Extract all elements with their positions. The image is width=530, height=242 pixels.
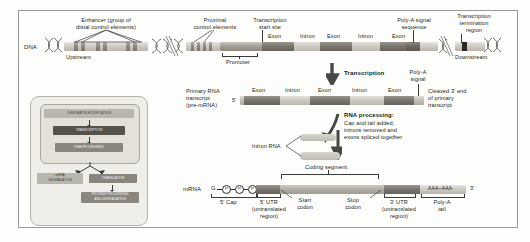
dna-intron-label-1: Intron <box>300 33 315 40</box>
flow-step-rna-processing[interactable]: RNA PROCESSING <box>55 143 123 152</box>
transcription-arrow <box>326 63 340 85</box>
dna-gene-body-bar <box>262 42 420 51</box>
upstream-label: Upstream <box>66 54 91 61</box>
transcription-start-site-label: Transcription start site <box>243 17 297 31</box>
start-codon-label: Start codon <box>292 197 318 211</box>
five-cap-bracket <box>211 194 257 198</box>
transcription-termination-label: Transcription termination region <box>442 13 506 34</box>
polya-signal-sequence-label: Poly-A signal sequence <box>388 17 440 31</box>
three-utr-label: 3' UTR (untranslated region) <box>378 199 420 220</box>
flow-step-chromatin-modification[interactable]: CHROMATIN MODIFICATION <box>44 109 134 118</box>
dna-exon-label-2: Exon <box>327 33 340 40</box>
polya-tail-bracket <box>421 194 465 198</box>
coding-segment-bracket <box>281 174 379 179</box>
dna-helix-break-right <box>437 36 457 56</box>
rna-processing-detail: Cap and tail added; introns removed and … <box>344 120 402 141</box>
dna-terminator-bar <box>455 42 485 51</box>
promoter-bracket <box>222 53 258 57</box>
pre-mrna-five-prime-label: 5' <box>232 97 236 104</box>
dna-row-label: DNA <box>24 44 37 51</box>
flow-arrow-2 <box>89 137 90 142</box>
dna-intron-label-2: Intron <box>358 33 373 40</box>
polya-signal-transcript-pointer <box>418 84 419 96</box>
cleaved-three-prime-label: Cleaved 3' end of primary transcript <box>428 88 467 109</box>
dna-polya-signal-sequence <box>406 42 420 51</box>
pre-mrna-intron-label-1: Intron <box>285 87 300 94</box>
gene-expression-flowchart-panel: CHROMATIN MODIFICATION TRANSCRIPTION RNA… <box>30 96 148 226</box>
pre-mrna-exon-label-3: Exon <box>388 87 401 94</box>
dna-exon-label-1: Exon <box>268 33 281 40</box>
flow-arrow-1 <box>89 120 90 125</box>
dna-proximal-bar <box>186 42 220 51</box>
pre-mrna-exon-label-2: Exon <box>318 87 331 94</box>
dna-post-polya-bar <box>420 42 438 51</box>
pre-mrna-bar <box>240 96 424 105</box>
pre-mrna-exon-label-1: Exon <box>252 87 265 94</box>
cap-guanine-label: G <box>211 185 216 192</box>
dna-promoter-bar <box>220 42 262 51</box>
mrna-three-prime-label: 3' <box>470 185 474 192</box>
dna-helix-middle <box>150 36 188 56</box>
three-utr-bracket <box>384 194 416 198</box>
enhancer-leader-lines <box>60 30 156 43</box>
polya-signal-pointer <box>413 30 414 43</box>
mrna-row-label: mRNA <box>183 186 201 193</box>
proximal-control-label: Proximal control elements <box>184 17 246 31</box>
dna-enhancer-bar <box>64 42 148 51</box>
five-cap-label: 5' Cap <box>220 199 237 206</box>
primary-transcript-label: Primary RNA transcript (pre-mRNA) <box>186 88 220 109</box>
five-utr-bracket <box>257 194 281 198</box>
termination-pointer <box>461 34 462 43</box>
dna-exon-label-3: Exon <box>392 33 405 40</box>
stop-codon-label: Stop codon <box>340 197 366 211</box>
rna-processing-heading: RNA processing: <box>344 112 394 119</box>
gene-expression-figure: DNA Enhancer (group of distal control el… <box>0 0 530 242</box>
flow-step-mrna-degradation[interactable]: mRNA DEGRADATION <box>37 173 83 184</box>
intron-rna-label: Intron RNA <box>252 143 281 150</box>
flow-step-transcription[interactable]: TRANSCRIPTION <box>53 126 125 135</box>
flow-step-protein-processing[interactable]: PROTEIN PROCESSING AND DEGRADATION <box>81 192 139 203</box>
polya-signal-transcript-label: Poly-A signal <box>403 69 433 83</box>
downstream-label: Downstream <box>455 54 487 61</box>
flow-arrow-3 <box>112 185 113 190</box>
coding-segment-label: Coding segment <box>305 164 347 171</box>
polya-tail-sequence: AAA~AAA <box>428 185 452 192</box>
five-utr-label: 5' UTR (untranslated region) <box>248 199 290 220</box>
flow-step-translation[interactable]: TRANSLATION <box>89 174 137 183</box>
promoter-label: Promoter <box>226 59 250 66</box>
polya-tail-label: Poly-A tail <box>424 199 460 213</box>
pre-mrna-intron-label-2: Intron <box>352 87 367 94</box>
intron-rna-blob-2 <box>300 152 340 160</box>
enhancer-label: Enhancer (group of distal control elemen… <box>58 17 154 31</box>
dna-helix-right <box>483 36 503 54</box>
transcription-arrow-label: Transcription <box>344 69 385 76</box>
intron-rna-leader-lines <box>286 134 306 160</box>
